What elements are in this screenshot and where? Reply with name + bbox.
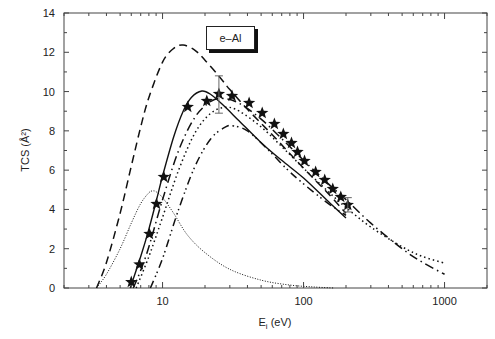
y-tick-label: 8 [49,125,55,137]
tcs-chart: 02468101214101001000 TCS (Å²) Ei (eV) [0,0,495,339]
y-tick-label: 2 [49,243,55,255]
star-marker [150,197,162,209]
star-marker [335,191,347,203]
star-marker [277,128,289,140]
curve-dash-dot [133,98,444,288]
x-tick-label: 1000 [432,295,456,307]
axis-ticks: 02468101214101001000 [43,7,487,307]
x-tick-label: 10 [156,295,168,307]
plot-frame [64,13,487,288]
plot-border [64,13,487,288]
annotation-box: e–Al [206,26,255,50]
star-marker [133,258,145,270]
curve-dashed [96,45,346,288]
star-marker [291,146,303,158]
experimental-points [125,76,354,288]
curve-solid [130,91,346,288]
y-tick-label: 10 [43,86,55,98]
star-marker [268,117,280,129]
curves [96,45,444,288]
y-tick-label: 6 [49,164,55,176]
star-marker [256,106,268,118]
y-tick-label: 14 [43,7,55,19]
x-axis-label: Ei (eV) [259,316,292,331]
curve-dash-dot-dot [150,125,346,288]
y-axis-label: TCS (Å²) [19,128,31,171]
y-tick-label: 4 [49,203,55,215]
star-marker [285,137,297,149]
curve-dotted-low [96,191,334,288]
x-axis-label-main: E [259,316,266,328]
star-marker [319,173,331,185]
y-tick-label: 0 [49,282,55,294]
y-tick-label: 12 [43,46,55,58]
annotation-label: e–Al [219,32,241,44]
x-tick-label: 100 [294,295,312,307]
x-axis-label-unit: (eV) [268,316,292,328]
